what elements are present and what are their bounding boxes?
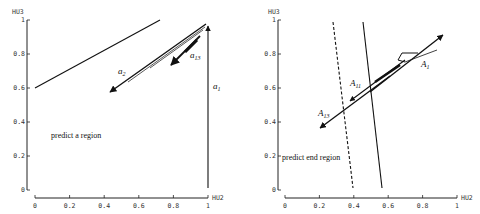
right-y-axis-title: HU3 xyxy=(268,8,280,16)
left-y-tick-2: 0.4 xyxy=(13,118,25,126)
right-y-tick-5: 1 xyxy=(272,16,276,24)
vector-a2-trace-2 xyxy=(150,30,203,68)
right-panel: 0 0.2 0.4 0.6 0.8 1 HU3 0 0.2 0.4 0.6 0.… xyxy=(264,8,473,210)
vector-A11 xyxy=(350,60,405,101)
left-region-label: predict a region xyxy=(51,131,101,140)
left-y-axis-title: HU3 xyxy=(12,8,24,16)
right-x-tick-5: 1 xyxy=(455,202,459,210)
left-x-tick-2: 0.4 xyxy=(98,202,110,210)
left-y-tick-3: 0.6 xyxy=(13,84,25,92)
right-y-tick-1: 0.2 xyxy=(264,152,276,160)
left-boundary-line xyxy=(35,20,160,88)
right-x-axis-title: HU2 xyxy=(461,194,473,202)
right-y-tick-2: 0.4 xyxy=(264,118,276,126)
left-x-tick-0: 0 xyxy=(33,202,37,210)
label-A1: A1 xyxy=(420,59,430,70)
right-x-tick-1: 0.2 xyxy=(314,202,326,210)
right-x-tick-2: 0.4 xyxy=(348,202,360,210)
left-x-tick-3: 0.6 xyxy=(133,202,145,210)
left-x-tick-5: 1 xyxy=(206,202,210,210)
chart-canvas: 0 0.2 0.4 0.6 0.8 1 HU3 0 0.2 0.4 0.6 0.… xyxy=(0,0,480,214)
right-boundary-solid xyxy=(363,22,382,188)
right-x-tick-3: 0.6 xyxy=(382,202,394,210)
figure: 0 0.2 0.4 0.6 0.8 1 HU3 0 0.2 0.4 0.6 0.… xyxy=(0,0,480,214)
right-x-tick-0: 0 xyxy=(283,202,287,210)
right-region-label: predict end region xyxy=(282,153,340,162)
label-a1: a1 xyxy=(213,81,221,92)
label-A11: A11 xyxy=(349,78,361,89)
left-x-tick-1: 0.2 xyxy=(64,202,76,210)
label-a13: a13 xyxy=(190,50,201,61)
right-y-tick-0: 0 xyxy=(272,186,276,194)
left-x-tick-4: 0.8 xyxy=(168,202,180,210)
left-y-tick-4: 0.8 xyxy=(13,50,25,58)
left-y-tick-0: 0 xyxy=(21,186,25,194)
label-A13: A13 xyxy=(317,108,330,119)
left-x-axis-title: HU2 xyxy=(212,194,224,202)
left-y-tick-5: 1 xyxy=(21,16,25,24)
label-a2: a2 xyxy=(118,66,126,77)
right-x-tick-4: 0.8 xyxy=(417,202,429,210)
right-y-tick-4: 0.8 xyxy=(264,50,276,58)
left-y-tick-1: 0.2 xyxy=(13,152,25,160)
right-y-tick-3: 0.6 xyxy=(264,84,276,92)
left-panel: 0 0.2 0.4 0.6 0.8 1 HU3 0 0.2 0.4 0.6 0.… xyxy=(12,8,224,210)
